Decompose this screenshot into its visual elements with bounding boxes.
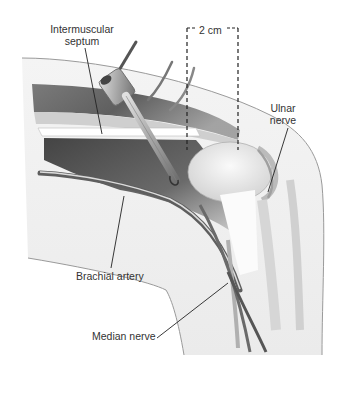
label-septum-line2: septum [44,35,120,47]
label-median-nerve: Median nerve [92,330,156,342]
label-ulnar-line1: Ulnar [263,102,303,114]
label-intermuscular-septum: Intermuscular septum [44,23,120,47]
intermuscular-septum [38,128,200,136]
label-scale-2cm: 2 cm [198,24,223,36]
label-septum-line1: Intermuscular [44,23,120,35]
label-ulnar-line2: nerve [263,114,303,126]
label-brachial-artery: Brachial artery [76,270,144,282]
label-ulnar-nerve: Ulnar nerve [263,102,303,126]
elbow-anatomy-illustration [0,0,341,412]
